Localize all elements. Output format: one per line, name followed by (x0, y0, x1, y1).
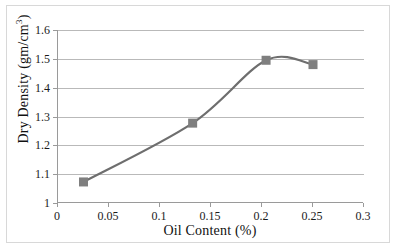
x-tick-label: 0.05 (83, 210, 133, 222)
x-axis-tick-labels: 00.050.10.150.20.250.3 (0, 0, 397, 250)
x-tick-label: 0.2 (236, 210, 286, 222)
y-axis-title-tail: ) (16, 14, 31, 19)
x-tick-mark (57, 203, 58, 207)
chart-figure: 11.11.21.31.41.51.6 00.050.10.150.20.250… (0, 0, 397, 250)
x-tick-label: 0.25 (287, 210, 337, 222)
x-tick-mark (312, 203, 313, 207)
x-tick-label: 0 (32, 210, 82, 222)
y-axis-title: Dry Density (gm/cm3) (16, 14, 31, 143)
y-axis-title-exponent: 3 (14, 19, 24, 24)
x-tick-label: 0.1 (134, 210, 184, 222)
x-tick-label: 0.15 (185, 210, 235, 222)
x-tick-mark (210, 203, 211, 207)
x-tick-mark (363, 203, 364, 207)
x-tick-label: 0.3 (338, 210, 388, 222)
x-tick-mark (159, 203, 160, 207)
x-axis-title: Oil Content (%) (57, 223, 363, 239)
x-tick-mark (261, 203, 262, 207)
y-axis-title-wrapper: Dry Density (gm/cm3) (14, 9, 32, 149)
y-axis-title-base: Dry Density (gm/cm (16, 24, 31, 143)
x-tick-mark (108, 203, 109, 207)
